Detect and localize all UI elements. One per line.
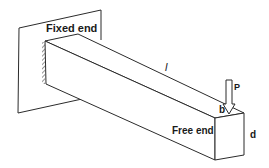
beam	[45, 34, 244, 160]
depth-label: d	[250, 129, 256, 140]
load-label: P	[234, 82, 240, 92]
width-label: b	[219, 104, 225, 115]
length-label: l	[165, 61, 168, 73]
fixed-end-label: Fixed end	[46, 22, 97, 34]
cantilever-diagram: Fixed end l P b Free end d	[0, 0, 269, 168]
free-end-label: Free end	[172, 125, 214, 136]
